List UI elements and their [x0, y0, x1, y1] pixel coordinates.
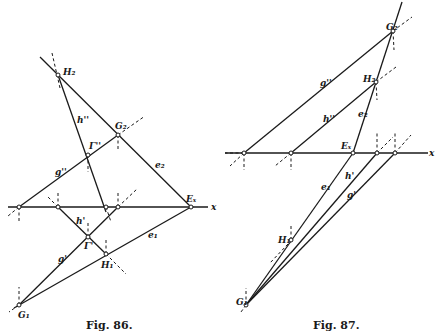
figure-86: H₂ h'' G₂ e₂ Γ'' g'' Eₓ x h' Γ' g' e₁ H₁…	[8, 53, 217, 332]
point-Gamma2-86	[86, 153, 90, 157]
line-g1-87	[246, 153, 395, 305]
dash-g1-ext	[118, 189, 137, 207]
label-x-86: x	[210, 202, 217, 212]
label-H1-86: H₁	[100, 260, 114, 270]
line-h1-87	[246, 153, 377, 305]
caption-fig-86: Fig. 86.	[86, 319, 132, 332]
label-h1-87: h'	[345, 171, 354, 181]
label-g1-86: g'	[58, 254, 67, 264]
dash-g2-left-87	[230, 153, 244, 166]
label-H2-87: H₂	[362, 74, 376, 84]
figure-87: G₂ g'' H₂ h'' e₂ Eₓ x e₁ h' g' H₁ G₁ Fig…	[225, 2, 435, 332]
line-g2-86	[19, 135, 118, 207]
label-h1-86: h'	[76, 216, 85, 226]
dash-g1-ext-87	[395, 135, 411, 153]
label-e2-87: e₂	[358, 109, 368, 119]
label-H2-86: H₂	[62, 67, 76, 77]
label-G2-87: G₂	[386, 22, 398, 32]
label-G2-86: G₂	[115, 121, 127, 131]
label-e1-86: e₁	[148, 230, 158, 240]
point-x1-87	[242, 151, 246, 155]
label-Gamma1-86: Γ'	[83, 241, 93, 251]
dash-h2-down-87	[376, 82, 377, 100]
label-g2-87: g''	[320, 78, 332, 88]
label-G1-87: G₁	[236, 297, 248, 307]
dash-h1-ext-87	[377, 137, 393, 153]
point-Ex-86	[189, 205, 193, 209]
label-Ex-87: Eₓ	[340, 141, 352, 151]
line-e2-86	[40, 57, 191, 207]
line-e1-87	[246, 153, 353, 305]
label-Ex-86: Eₓ	[185, 194, 197, 204]
point-Ex-87	[351, 151, 355, 155]
diagram-canvas: H₂ h'' G₂ e₂ Γ'' g'' Eₓ x h' Γ' g' e₁ H₁…	[0, 0, 439, 334]
label-h2-86: h''	[77, 115, 89, 125]
point-x1-86	[17, 205, 21, 209]
dash-h2-left-87	[275, 153, 291, 166]
line-g1-86	[19, 207, 118, 305]
point-x2-86	[56, 205, 60, 209]
label-x-87: x	[428, 148, 435, 158]
point-Gamma1-86	[86, 235, 90, 239]
point-x3-86	[104, 205, 108, 209]
label-g1-87: g'	[347, 190, 356, 200]
label-e1-87: e₁	[321, 182, 331, 192]
line-h1-86	[58, 207, 106, 254]
point-G1-86	[17, 303, 21, 307]
point-H2-86	[56, 73, 60, 77]
label-Gamma2-86: Γ''	[88, 141, 101, 151]
point-G2-86	[116, 133, 120, 137]
label-G1-86: G₁	[18, 310, 30, 320]
label-H1-87: H₁	[277, 235, 291, 245]
label-h2-87: h''	[323, 114, 335, 124]
point-x5-87	[393, 151, 397, 155]
line-g2-87	[244, 31, 393, 153]
label-e2-86: e₂	[155, 160, 165, 170]
dash-g2-down-87	[393, 31, 394, 50]
caption-fig-87: Fig. 87.	[313, 319, 359, 332]
point-x4-87	[375, 151, 379, 155]
point-H1-86	[104, 252, 108, 256]
label-g2-86: g''	[55, 167, 67, 177]
point-x4-86	[116, 205, 120, 209]
point-x2-87	[289, 151, 293, 155]
